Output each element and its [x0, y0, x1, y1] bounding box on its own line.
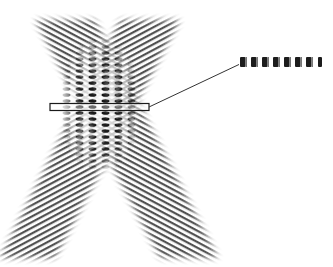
magnified-strip [239, 57, 326, 67]
slice-box [50, 104, 149, 111]
interference-diagram [0, 0, 333, 267]
right-beam [0, 0, 333, 267]
